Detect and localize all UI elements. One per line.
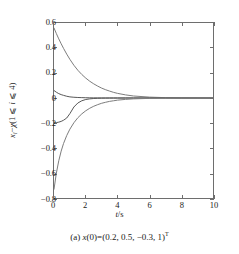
data-series-line bbox=[54, 98, 213, 189]
data-series-line bbox=[54, 98, 213, 123]
caption-prefix: (a) bbox=[70, 232, 82, 242]
x-tick-mark bbox=[53, 22, 54, 26]
y-tick-label: 0 bbox=[52, 94, 56, 103]
x-tick-mark bbox=[53, 195, 54, 199]
x-tick-label: 8 bbox=[172, 201, 192, 210]
x-tick-mark bbox=[214, 22, 215, 26]
y-tick-mark bbox=[210, 123, 214, 124]
figure-caption: (a) x(0)=(0.2, 0.5, −0.3, 1)T bbox=[0, 229, 239, 243]
x-tick-mark bbox=[182, 22, 183, 26]
x-tick-mark bbox=[85, 195, 86, 199]
caption-body: (0)=(0.2, 0.5, −0.3, 1) bbox=[87, 232, 165, 242]
curve-svg bbox=[54, 23, 213, 198]
y-tick-mark bbox=[210, 148, 214, 149]
data-series-line bbox=[54, 90, 213, 98]
x-tick-mark bbox=[85, 22, 86, 26]
y-tick-label: 0.2 bbox=[46, 68, 56, 77]
figure-panel: 0.60.40.20−0.2−0.4−0.6−0.80246810 xi−χ(1… bbox=[0, 0, 239, 254]
y-tick-label: −0.4 bbox=[41, 144, 56, 153]
y-axis-label: xi−χ(1 ⩽ i ⩽ 4) bbox=[8, 55, 21, 165]
y-tick-mark bbox=[210, 98, 214, 99]
y-tick-mark bbox=[210, 47, 214, 48]
x-tick-mark bbox=[182, 195, 183, 199]
x-tick-mark bbox=[214, 195, 215, 199]
x-tick-label: 0 bbox=[43, 201, 63, 210]
plot-area bbox=[53, 22, 214, 199]
x-tick-label: 10 bbox=[204, 201, 224, 210]
x-axis-label: t/s bbox=[0, 210, 239, 219]
y-tick-label: −0.2 bbox=[41, 119, 56, 128]
y-tick-mark bbox=[210, 73, 214, 74]
x-tick-mark bbox=[117, 195, 118, 199]
x-axis-label-text: t/s bbox=[115, 209, 123, 219]
x-tick-mark bbox=[117, 22, 118, 26]
y-tick-label: 0.6 bbox=[46, 18, 56, 27]
y-tick-label: −0.6 bbox=[41, 169, 56, 178]
x-tick-label: 2 bbox=[75, 201, 95, 210]
x-tick-label: 6 bbox=[140, 201, 160, 210]
x-tick-mark bbox=[150, 22, 151, 26]
y-tick-label: 0.4 bbox=[46, 43, 56, 52]
data-series-line bbox=[54, 28, 213, 98]
x-tick-mark bbox=[150, 195, 151, 199]
y-axis-label-text: xi−χ(1 ⩽ i ⩽ 4) bbox=[7, 83, 17, 138]
caption-superscript: T bbox=[165, 231, 169, 237]
y-tick-mark bbox=[210, 174, 214, 175]
